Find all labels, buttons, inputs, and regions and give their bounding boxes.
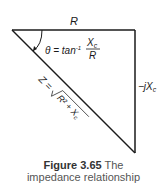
svg-text:Z =: Z = — [36, 73, 55, 92]
caption-text-1: The — [104, 159, 123, 171]
impedance-triangle-diagram: R θ = tan-1 Xc R −jXc Z = R² + Xc — [0, 0, 167, 183]
label-r: R — [70, 15, 78, 27]
caption-text-2: impedance relationship — [27, 171, 140, 183]
label-theta-den: R — [89, 50, 96, 61]
label-theta-num: Xc — [86, 37, 98, 49]
figure-number: Figure 3.65 — [44, 159, 102, 171]
figure-caption: Figure 3.65 The impedance relationship — [0, 159, 167, 183]
label-neg-jxc: −jXc — [138, 81, 157, 93]
label-theta: θ = tan-1 — [45, 45, 81, 56]
angle-arrowhead — [33, 46, 37, 51]
